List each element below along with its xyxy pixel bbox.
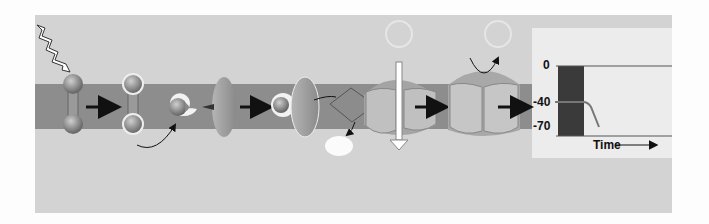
membrane-potential-chart bbox=[555, 66, 672, 145]
blocked-ion-arrow bbox=[470, 58, 498, 73]
light-bolt-icon bbox=[37, 25, 70, 72]
curved-arrow-2 bbox=[347, 122, 355, 135]
y-tick-0: 0 bbox=[543, 58, 550, 72]
closed-channel-icon bbox=[448, 71, 520, 136]
pde-disc-2-icon bbox=[271, 77, 319, 137]
ion-circle-1 bbox=[386, 21, 412, 47]
y-tick-70: -70 bbox=[533, 119, 550, 133]
rhodopsin-inactive-icon bbox=[63, 74, 83, 134]
pde-disc-1-icon bbox=[202, 77, 236, 137]
y-tick-40: -40 bbox=[533, 95, 550, 109]
gmp-product-icon bbox=[325, 136, 353, 156]
transducin-icon bbox=[169, 93, 197, 116]
ion-circle-2 bbox=[485, 21, 511, 47]
x-axis-label: Time bbox=[593, 138, 621, 152]
rhodopsin-active-icon bbox=[123, 74, 143, 134]
potential-line bbox=[583, 102, 599, 127]
diagram-canvas bbox=[0, 0, 709, 224]
